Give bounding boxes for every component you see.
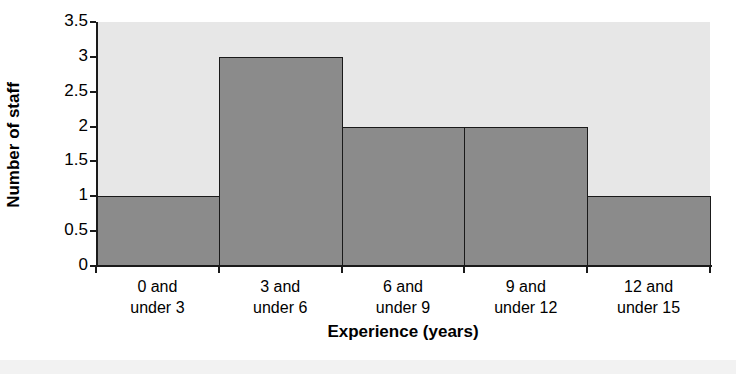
y-tick-label: 3.5 [44,11,88,31]
y-tick-mark [90,195,96,197]
y-tick-mark [90,91,96,93]
y-tick-label: 1.5 [44,150,88,170]
x-tick-mark [95,266,97,273]
x-tick-label: 9 andunder 12 [464,276,587,318]
bar [96,196,220,266]
scan-artifact-strip [0,360,736,374]
y-tick-mark [90,21,96,23]
x-tick-label: 0 andunder 3 [96,276,219,318]
x-tick-label-line: under 15 [587,297,710,318]
y-tick-label: 0.5 [44,220,88,240]
x-tick-mark [586,266,588,273]
x-tick-label-line: 6 and [342,276,465,297]
y-tick-label: 0 [44,255,88,275]
y-tick-mark [90,160,96,162]
x-tick-mark [709,266,711,273]
x-tick-label: 3 andunder 6 [219,276,342,318]
y-tick-mark [90,56,96,58]
x-axis-title: Experience (years) [96,322,710,342]
y-axis-line [96,22,98,267]
bar [587,196,711,266]
x-tick-mark [463,266,465,273]
y-tick-label: 1 [44,185,88,205]
bar [464,127,588,266]
x-tick-label-line: under 12 [464,297,587,318]
y-tick-label: 2.5 [44,81,88,101]
x-tick-label-line: under 3 [96,297,219,318]
bar [342,127,466,266]
x-tick-label-line: 12 and [587,276,710,297]
x-tick-label: 12 andunder 15 [587,276,710,318]
x-axis-line [96,265,712,267]
x-tick-mark [218,266,220,273]
x-tick-label-line: 9 and [464,276,587,297]
x-tick-label-line: 0 and [96,276,219,297]
chart-page: Number of staff 00.511.522.533.5 0 andun… [0,0,736,374]
y-tick-mark [90,230,96,232]
x-tick-label-line: under 6 [219,297,342,318]
x-tick-label-line: under 9 [342,297,465,318]
x-tick-label-line: 3 and [219,276,342,297]
y-tick-label: 2 [44,116,88,136]
x-tick-mark [341,266,343,273]
y-tick-mark [90,126,96,128]
y-axis-title: Number of staff [0,23,28,267]
x-tick-label: 6 andunder 9 [342,276,465,318]
y-tick-label: 3 [44,46,88,66]
bar [219,57,343,266]
